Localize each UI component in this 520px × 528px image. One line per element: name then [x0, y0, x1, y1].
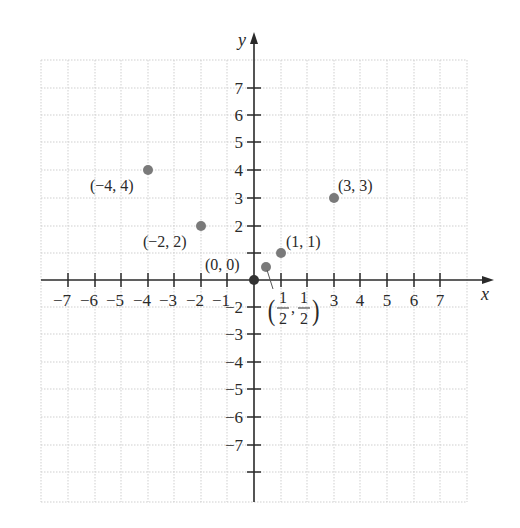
svg-text:(: ( — [268, 293, 275, 327]
svg-text:4: 4 — [356, 291, 365, 310]
svg-text:−6: −6 — [80, 291, 98, 310]
svg-text:−3: −3 — [225, 325, 243, 344]
x-axis-arrow-icon — [482, 276, 494, 284]
label-half-half: ( 1 2 , 1 2 ) — [268, 289, 320, 327]
svg-text:,: , — [291, 299, 295, 316]
svg-text:1: 1 — [279, 289, 287, 306]
label-1-1: (1, 1) — [286, 233, 321, 251]
point-half-half — [261, 262, 271, 272]
svg-text:−5: −5 — [106, 291, 124, 310]
svg-text:1: 1 — [300, 289, 308, 306]
svg-text:6: 6 — [410, 291, 419, 310]
point-neg2-2 — [196, 221, 206, 231]
y-axis-arrow-icon — [250, 32, 258, 44]
point-origin — [249, 275, 259, 285]
svg-text:): ) — [312, 293, 319, 327]
y-axis-label: y — [236, 30, 246, 50]
svg-text:−2: −2 — [225, 298, 243, 317]
label-3-3: (3, 3) — [338, 177, 373, 195]
svg-text:−3: −3 — [159, 291, 177, 310]
point-3-3 — [329, 193, 339, 203]
svg-text:−4: −4 — [225, 353, 244, 372]
svg-text:3: 3 — [235, 189, 244, 208]
svg-text:−7: −7 — [225, 436, 244, 455]
svg-text:6: 6 — [235, 106, 244, 125]
svg-text:2: 2 — [300, 310, 308, 327]
svg-text:2: 2 — [279, 310, 287, 327]
coordinate-plane: x y −7 −6 −5 −4 — [0, 0, 520, 528]
point-neg4-4 — [143, 165, 153, 175]
label-neg2-2: (−2, 2) — [143, 233, 187, 251]
svg-text:−6: −6 — [225, 408, 243, 427]
svg-text:7: 7 — [436, 291, 445, 310]
label-origin: (0, 0) — [205, 256, 240, 274]
x-axis-label: x — [480, 284, 489, 304]
svg-text:−5: −5 — [225, 380, 243, 399]
svg-text:−4: −4 — [133, 291, 152, 310]
svg-text:7: 7 — [235, 79, 244, 98]
svg-text:4: 4 — [235, 161, 244, 180]
svg-text:3: 3 — [330, 291, 339, 310]
svg-text:2: 2 — [235, 217, 244, 236]
label-neg4-4: (−4, 4) — [90, 177, 134, 195]
svg-text:−7: −7 — [53, 291, 72, 310]
svg-text:−2: −2 — [186, 291, 204, 310]
svg-text:5: 5 — [235, 133, 244, 152]
svg-text:5: 5 — [383, 291, 392, 310]
point-1-1 — [276, 248, 286, 258]
